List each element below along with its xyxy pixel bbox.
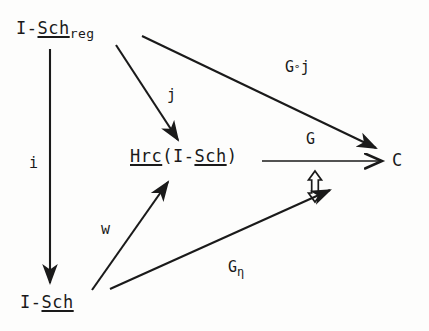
edge-label-j: j (167, 88, 176, 103)
node-isch: I-Sch (20, 294, 74, 311)
edge-label-geta: Gη (228, 260, 244, 278)
node-isch-reg-prefix: I- (16, 18, 37, 38)
node-hrc: Hrc(I-Sch) (130, 148, 237, 165)
edge-arrow-geta (110, 190, 330, 289)
edge-label-geta-subscript: η (237, 265, 244, 279)
edge-label-i: i (29, 156, 38, 171)
node-isch-underlined: Sch (41, 292, 73, 312)
node-hrc-open-paren: (I- (162, 146, 194, 166)
node-isch-reg-underlined: Sch (37, 18, 69, 38)
edge-label-geta-head: G (228, 258, 237, 276)
node-hrc-close-paren: ) (227, 146, 238, 166)
edge-label-goj-tail: j (301, 58, 310, 76)
node-isch-prefix: I- (20, 292, 41, 312)
edge-label-goj: G∘j (285, 60, 310, 75)
composition-operator-icon: ∘ (294, 60, 301, 73)
node-isch-reg: I-Schreg (16, 20, 95, 40)
edge-label-w: w (101, 222, 110, 237)
node-c: C (392, 152, 403, 169)
diagram-canvas: I-Schreg Hrc(I-Sch) I-Sch C i j w G G∘j … (0, 0, 429, 331)
node-hrc-underlined-head: Hrc (130, 146, 162, 166)
edge-arrow-goj (142, 36, 376, 148)
edge-label-g: G (306, 132, 315, 147)
node-hrc-underlined-tail: Sch (194, 146, 226, 166)
edge-label-goj-head: G (285, 58, 294, 76)
node-isch-reg-subscript: reg (70, 26, 95, 41)
